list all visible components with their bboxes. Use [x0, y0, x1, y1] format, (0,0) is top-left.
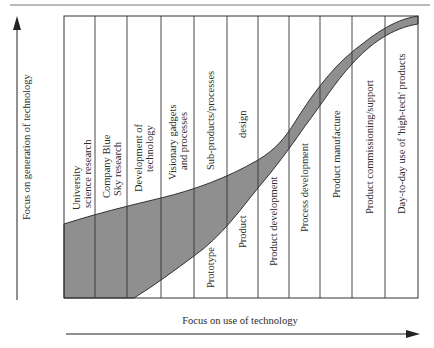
- col-label-7: Product development: [268, 176, 279, 266]
- col-label-2a: Company Blue: [101, 134, 112, 198]
- col-label-5: Sub-products/processes: [205, 71, 216, 170]
- col-label-4a: Visionary gadgets: [167, 105, 178, 180]
- col-label-1b: science research: [82, 139, 93, 208]
- x-axis: Focus on use of technology: [66, 315, 420, 338]
- col-label-3b: technology: [144, 125, 155, 172]
- col-label-6: design: [237, 110, 248, 138]
- col-label-8: Process development: [299, 143, 310, 232]
- col-label-4b: and processes: [178, 112, 189, 170]
- y-axis-label: Focus on generation of technology: [21, 73, 32, 220]
- col-label-3a: Development of: [133, 124, 144, 192]
- lower-label-product: Product: [237, 215, 248, 248]
- y-axis: Focus on generation of technology: [13, 16, 32, 300]
- col-label-11: Day-to-day use of 'high-tech' products: [396, 53, 407, 214]
- x-axis-label: Focus on use of technology: [182, 315, 298, 326]
- arrow-up-icon: [13, 16, 21, 30]
- col-label-9: Product manufacture: [331, 110, 342, 198]
- col-label-2b: Sky research: [112, 141, 123, 196]
- col-label-1a: University: [71, 165, 82, 210]
- technology-focus-diagram: University science research Company Blue…: [0, 0, 434, 348]
- arrow-right-icon: [406, 330, 420, 338]
- col-label-10: Product commissioning/support: [364, 80, 375, 214]
- lower-label-prototype: Prototype: [205, 247, 216, 288]
